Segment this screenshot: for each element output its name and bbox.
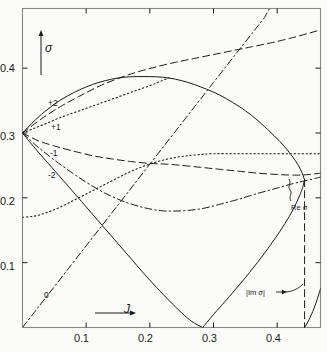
sigma-arrow-head <box>39 30 44 36</box>
curve-dashdot-minus2-lower <box>23 133 321 211</box>
x-tick-label-0.3: 0.3 <box>202 332 217 344</box>
branch-label-minus1: -1 <box>50 148 58 158</box>
annotation-re-sigma: Re σ <box>291 203 307 212</box>
branch-label-plus2: +2 <box>48 98 58 108</box>
curve-dotted-plus1 <box>23 78 169 133</box>
annotation-im-sigma: |Im σ| <box>246 288 265 297</box>
figure-container: 0.4 0.3 0.2 0.1 0.1 0.2 0.3 0.4 σ J +2 +… <box>0 0 327 352</box>
x-axis-label: J <box>124 302 130 316</box>
curve-group <box>23 9 321 328</box>
y-tick-label-0.2: 0.2 <box>0 195 15 207</box>
curve-dashed-plus2 <box>23 30 321 133</box>
curve-solid-rising-from-cusp <box>203 180 305 328</box>
sigma-axis-arrow <box>39 30 44 75</box>
im-arrow-curve <box>284 284 303 292</box>
y-axis-label: σ <box>45 41 52 55</box>
branch-label-plus1: +1 <box>51 122 61 132</box>
x-tick-label-0.1: 0.1 <box>74 332 89 344</box>
x-tick-label-0.2: 0.2 <box>138 332 153 344</box>
curve-lower-solid-envelope <box>23 133 203 328</box>
tick-marks <box>23 9 321 328</box>
curve-dashdot-zero-line <box>23 9 270 328</box>
plot-frame <box>23 9 321 328</box>
curve-dashed-minus1 <box>23 133 321 175</box>
branch-label-zero: 0 <box>44 290 49 300</box>
im-sigma-leader <box>276 284 303 294</box>
j-arrow-head <box>130 311 136 316</box>
re-sigma-leader <box>289 179 291 201</box>
y-tick-label-0.4: 0.4 <box>0 62 15 74</box>
y-tick-label-0.3: 0.3 <box>0 130 15 142</box>
curve-corner-arc-bottom-right <box>305 289 321 328</box>
branch-label-minus2: -2 <box>48 170 56 180</box>
y-tick-label-0.1: 0.1 <box>0 260 15 272</box>
x-tick-label-0.4: 0.4 <box>266 332 281 344</box>
